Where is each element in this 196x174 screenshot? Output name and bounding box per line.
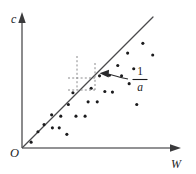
data-point — [71, 91, 74, 94]
data-point — [151, 54, 154, 57]
figure-canvas: c W O 1 a — [0, 0, 196, 174]
data-point — [132, 67, 135, 70]
data-point — [141, 42, 144, 45]
slope-callout-arrow — [100, 70, 129, 79]
slope-triangle-dashed — [68, 56, 95, 90]
data-point — [103, 90, 106, 93]
data-point — [84, 115, 87, 118]
data-point — [87, 100, 90, 103]
data-point — [42, 123, 45, 126]
x-axis-arrowhead — [170, 144, 181, 151]
data-point — [90, 87, 93, 90]
data-point — [67, 103, 70, 106]
data-point — [135, 103, 138, 106]
data-point — [128, 82, 131, 85]
data-point — [36, 130, 39, 133]
data-point — [96, 100, 99, 103]
y-axis-label: c — [11, 12, 17, 26]
data-point — [50, 113, 53, 116]
data-point — [74, 115, 77, 118]
data-point — [65, 133, 68, 136]
data-point — [126, 52, 129, 55]
scatter-figure: c W O 1 a — [0, 0, 196, 174]
x-axis-label: W — [171, 157, 182, 171]
slope-numerator: 1 — [137, 65, 143, 77]
data-point — [111, 91, 114, 94]
data-point — [59, 115, 62, 118]
slope-denominator: a — [137, 81, 143, 93]
data-point — [116, 64, 119, 67]
data-point — [58, 126, 61, 129]
axes-group — [18, 12, 181, 152]
origin-label: O — [10, 146, 19, 160]
data-points-layer — [30, 42, 155, 144]
data-point — [98, 74, 101, 77]
y-axis-arrowhead — [18, 12, 25, 23]
data-point — [30, 141, 33, 144]
fit-line — [23, 17, 154, 148]
data-point — [51, 126, 54, 129]
